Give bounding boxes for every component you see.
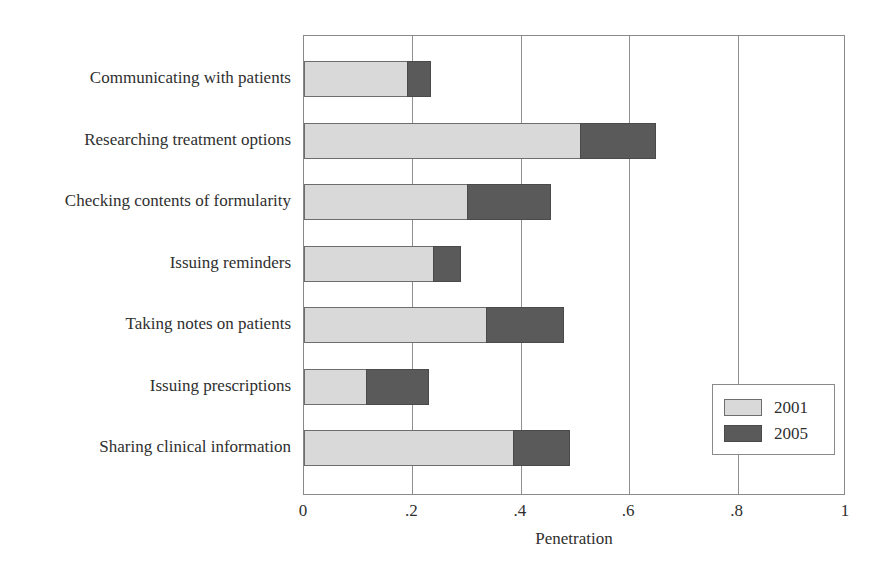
x-tick-label: 0 (283, 501, 323, 521)
x-tick-label: 1 (825, 501, 865, 521)
bar-segment-2005 (580, 123, 656, 159)
category-label: Sharing clinical information (99, 438, 291, 455)
bar-segment-2005 (366, 369, 428, 405)
bar-segment-2005 (467, 184, 551, 220)
legend-item: 2001 (724, 394, 834, 420)
bar-row (304, 369, 429, 405)
bar-segment-2001 (304, 369, 366, 405)
category-label: Checking contents of formularity (65, 192, 291, 209)
bar-segment-2001 (304, 430, 513, 466)
bar-segment-2001 (304, 123, 580, 159)
bar-chart: Communicating with patientsResearching t… (0, 0, 879, 571)
bar-segment-2001 (304, 307, 486, 343)
x-axis-title: Penetration (303, 529, 845, 549)
category-label: Researching treatment options (84, 131, 291, 148)
bar-segment-2001 (304, 184, 467, 220)
legend-label: 2005 (774, 425, 808, 442)
bar-row (304, 184, 551, 220)
bar-row (304, 61, 431, 97)
legend-label: 2001 (774, 399, 808, 416)
legend-swatch-2001 (724, 399, 762, 416)
legend-item: 2005 (724, 420, 834, 446)
bar-row (304, 307, 564, 343)
bar-row (304, 430, 570, 466)
bar-segment-2005 (486, 307, 565, 343)
bar-row (304, 246, 461, 282)
x-tick-label: .2 (391, 501, 431, 521)
category-label: Issuing reminders (170, 254, 291, 271)
bar-row (304, 123, 656, 159)
bar-segment-2005 (407, 61, 431, 97)
bar-segment-2001 (304, 246, 433, 282)
legend: 20012005 (712, 384, 835, 455)
gridline (629, 36, 630, 494)
category-label: Communicating with patients (90, 69, 291, 86)
legend-swatch-2005 (724, 425, 762, 442)
bar-segment-2001 (304, 61, 407, 97)
category-label: Taking notes on patients (126, 315, 291, 332)
x-tick-label: .8 (717, 501, 757, 521)
bar-segment-2005 (513, 430, 570, 466)
category-label: Issuing prescriptions (150, 377, 291, 394)
gridline (521, 36, 522, 494)
x-tick-label: .6 (608, 501, 648, 521)
bar-segment-2005 (433, 246, 461, 282)
x-tick-label: .4 (500, 501, 540, 521)
